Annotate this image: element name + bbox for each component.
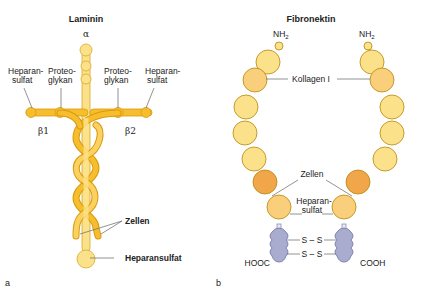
fibronektin-right-chain [332, 42, 404, 262]
heparansulfat-right-label-line2: sulfat [147, 75, 168, 85]
leader-line [24, 88, 32, 108]
kollagen-label: Kollagen I [292, 74, 330, 84]
beta2-chain-label: β2 [125, 126, 136, 136]
hooc-label: HOOC [245, 258, 271, 268]
cooh-label: COOH [360, 258, 386, 268]
panel-letter-a: a [5, 278, 10, 288]
fibronektin-title: Fibronektin [287, 14, 336, 24]
heparansulfat-bottom-label: Heparansulfat [125, 253, 182, 263]
disulfide-bridge-bottom: S – S [302, 249, 323, 259]
heparansulfat-left-label-line2: sulfat [12, 75, 33, 85]
gray-terminal-domain-left [270, 228, 288, 262]
proteoglykan-right-label-line2: glykan [104, 75, 129, 85]
disulfide-bridge-top: S – S [302, 235, 323, 245]
zellen-label-b: Zellen [300, 169, 323, 179]
laminin-diagram: Laminin α [5, 14, 182, 288]
diagram-canvas: Laminin α [0, 0, 424, 292]
leader-line [101, 221, 122, 234]
nh2-left-label: NH2 [273, 29, 289, 40]
beta1-chain-label: β1 [38, 126, 49, 136]
laminin-title: Laminin [69, 14, 104, 24]
fibronektin-diagram: Fibronektin NH2 [216, 14, 404, 288]
heparansulfat-bulb [77, 250, 95, 268]
alpha-chain-label: α [83, 29, 89, 39]
heparansulfat-label-b-line2: sulfat [302, 205, 323, 215]
gray-terminal-domain-right [335, 228, 353, 262]
nh2-right-label: NH2 [359, 29, 375, 40]
leader-line [146, 88, 154, 108]
proteoglykan-left-label-line2: glykan [48, 75, 73, 85]
fibronektin-left-chain [233, 42, 291, 262]
zellen-label-a: Zellen [125, 216, 150, 226]
panel-letter-b: b [216, 278, 221, 288]
